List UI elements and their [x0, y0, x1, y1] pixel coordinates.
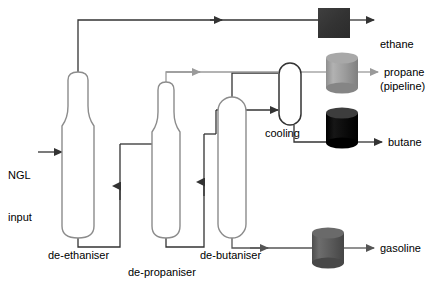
label-butane: butane — [388, 136, 422, 149]
vessel-de-butaniser[interactable] — [218, 97, 246, 238]
label-ethane-line1: ethane — [380, 37, 425, 51]
label-de-propaniser: de-propaniser — [128, 266, 196, 279]
label-de-ethaniser: de-ethaniser — [48, 249, 109, 262]
ngl-input-label-line2: input — [8, 210, 32, 224]
vessel-de-propaniser[interactable] — [152, 82, 180, 238]
vessel-cooling[interactable] — [279, 63, 301, 125]
label-ethane-line2: (pipeline) — [380, 79, 425, 93]
pipe-gasoline-bottoms — [232, 238, 374, 248]
label-propane: propane — [384, 66, 424, 79]
storage-propane-tank[interactable] — [326, 53, 358, 94]
label-de-butaniser: de-butaniser — [200, 249, 261, 262]
label-ethane: ethane (pipeline) — [380, 9, 425, 121]
vessel-de-ethaniser[interactable] — [62, 72, 94, 238]
process-flow-diagram: NGL input de-ethaniser de-propaniser de-… — [0, 0, 440, 290]
storage-butane-tank[interactable] — [326, 108, 358, 149]
ngl-input-label-line1: NGL — [8, 168, 32, 182]
pipe-butane-overhead-to-cooling — [232, 73, 278, 97]
label-gasoline: gasoline — [380, 242, 421, 255]
ngl-input-label: NGL input — [8, 140, 32, 252]
flow-lines-layer — [0, 0, 440, 290]
label-cooling: cooling — [265, 127, 300, 140]
storage-gasoline-tank[interactable] — [312, 228, 344, 269]
storage-ethane-box[interactable] — [318, 8, 350, 38]
